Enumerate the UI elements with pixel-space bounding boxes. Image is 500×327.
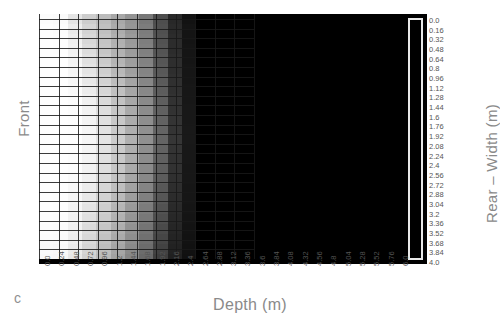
heatmap-cell <box>196 74 210 84</box>
heatmap-cell <box>182 244 196 254</box>
x-tick-label: 4.56 <box>316 251 324 266</box>
heatmap-cell <box>96 194 110 204</box>
heatmap-cell <box>125 114 139 124</box>
heatmap-cell <box>96 24 110 34</box>
heatmap-cell <box>39 234 53 244</box>
heatmap-cell <box>382 154 396 164</box>
heatmap-cell <box>354 114 368 124</box>
heatmap-cell <box>125 214 139 224</box>
heatmap-cell <box>111 194 125 204</box>
heatmap-cell <box>282 54 296 64</box>
heatmap-cell <box>196 224 210 234</box>
heatmap-cell <box>39 244 53 254</box>
heatmap-cell <box>39 74 53 84</box>
heatmap-cell <box>82 204 96 214</box>
heatmap-cell <box>339 174 353 184</box>
heatmap-cell <box>53 104 67 114</box>
heatmap-cell <box>211 184 225 194</box>
heatmap-cell <box>325 204 339 214</box>
x-tick-label: 6.0 <box>402 256 410 266</box>
heatmap-cell <box>111 184 125 194</box>
heatmap-cell <box>268 224 282 234</box>
heatmap-cell <box>354 194 368 204</box>
heatmap-cell <box>182 94 196 104</box>
x-axis-tick-labels: 0.00.240.480.720.961.21.441.681.922.162.… <box>39 266 411 298</box>
heatmap-cell <box>254 184 268 194</box>
heatmap-cell <box>239 214 253 224</box>
heatmap-cell <box>82 194 96 204</box>
y-tick-label: 2.88 <box>429 191 444 199</box>
heatmap-cell <box>311 64 325 74</box>
heatmap-cell <box>311 34 325 44</box>
heatmap-cell <box>68 184 82 194</box>
y-tick-label: 4.0 <box>429 259 439 267</box>
heatmap-cell <box>339 24 353 34</box>
heatmap-cell <box>111 84 125 94</box>
heatmap-cell <box>368 164 382 174</box>
heatmap-cell <box>182 104 196 114</box>
heatmap-cell <box>125 94 139 104</box>
heatmap-cell <box>211 144 225 154</box>
heatmap-cell <box>297 134 311 144</box>
heatmap-cell <box>368 184 382 194</box>
heatmap-cell <box>268 34 282 44</box>
heatmap-cell <box>254 44 268 54</box>
heatmap-cell <box>282 234 296 244</box>
heatmap-cell <box>153 44 167 54</box>
heatmap-cell <box>368 144 382 154</box>
heatmap-cell <box>225 104 239 114</box>
heatmap-cell <box>111 104 125 114</box>
heatmap-cell <box>268 104 282 114</box>
heatmap-cell <box>254 204 268 214</box>
heatmap-cell <box>168 164 182 174</box>
heatmap-cell <box>196 204 210 214</box>
heatmap-cell <box>282 154 296 164</box>
y-axis-tick-labels: 0.00.160.320.480.640.80.961.121.281.441.… <box>429 13 455 265</box>
heatmap-cell <box>53 94 67 104</box>
heatmap-cell <box>196 24 210 34</box>
heatmap-cell <box>382 194 396 204</box>
y-tick-label: 3.36 <box>429 220 444 228</box>
heatmap-cell <box>153 54 167 64</box>
heatmap-cell <box>225 34 239 44</box>
y-tick-label: 2.4 <box>429 162 439 170</box>
heatmap-cell <box>268 54 282 64</box>
heatmap-cell <box>325 64 339 74</box>
heatmap-cell <box>297 44 311 54</box>
heatmap-cell <box>368 174 382 184</box>
heatmap-cell <box>153 214 167 224</box>
heatmap-cell <box>297 54 311 64</box>
heatmap-cell <box>268 64 282 74</box>
heatmap-cell <box>211 84 225 94</box>
heatmap-cell <box>125 234 139 244</box>
heatmap-cell <box>182 84 196 94</box>
heatmap-cell <box>211 224 225 234</box>
heatmap-cell <box>168 214 182 224</box>
heatmap-cell <box>368 54 382 64</box>
heatmap-cell <box>68 84 82 94</box>
heatmap-cell <box>268 144 282 154</box>
heatmap-cell <box>182 14 196 24</box>
heatmap-cell <box>53 44 67 54</box>
heatmap-cell <box>68 144 82 154</box>
heatmap-cell <box>382 74 396 84</box>
heatmap-cell <box>211 104 225 114</box>
heatmap-cell <box>254 174 268 184</box>
heatmap-cell <box>139 224 153 234</box>
heatmap-cell <box>39 24 53 34</box>
y-tick-label: 3.2 <box>429 211 439 219</box>
heatmap-cell <box>225 14 239 24</box>
heatmap-cell <box>196 184 210 194</box>
heatmap-cell <box>196 194 210 204</box>
heatmap-cell <box>311 194 325 204</box>
heatmap-cell <box>211 204 225 214</box>
heatmap-cell <box>354 174 368 184</box>
heatmap-cell <box>311 24 325 34</box>
heatmap-cell <box>339 64 353 74</box>
heatmap-cell <box>282 114 296 124</box>
heatmap-cell <box>297 24 311 34</box>
heatmap-cell <box>382 114 396 124</box>
heatmap-cell <box>196 154 210 164</box>
y-tick-label: 0.64 <box>429 56 444 64</box>
heatmap-cell <box>254 134 268 144</box>
